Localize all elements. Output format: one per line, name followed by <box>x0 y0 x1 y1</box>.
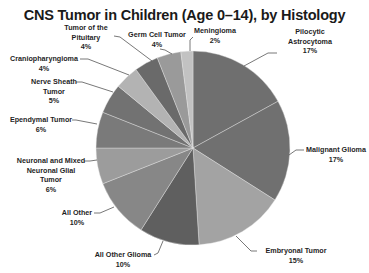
label-pct: 6% <box>12 185 90 195</box>
label-text: Pituitary <box>58 33 114 43</box>
label-text: Ependymal Tumor <box>5 115 77 125</box>
label-embryonal: Embryonal Tumor 15% <box>256 246 336 265</box>
label-text: Malignant Glioma <box>303 145 369 155</box>
label-nervesheath: Nerve Sheath Tumor 5% <box>26 77 82 106</box>
label-allotherglioma: All Other Glioma 10% <box>88 250 158 269</box>
leader-embryonal <box>236 236 257 251</box>
label-text: Astrocytoma <box>271 37 349 47</box>
label-text: Tumor <box>26 87 82 97</box>
label-text: Pilocytic <box>271 27 349 37</box>
label-text: Embryonal Tumor <box>256 246 336 256</box>
leader-malignant <box>289 150 304 155</box>
leader-cranio <box>80 59 129 75</box>
leader-germcell <box>160 49 172 54</box>
label-meningioma: Meningioma 2% <box>190 26 240 45</box>
label-pct: 17% <box>303 155 369 165</box>
label-allother: All Other 10% <box>52 208 102 227</box>
label-text: Tumor <box>12 175 90 185</box>
label-pct: 10% <box>88 260 158 270</box>
label-text: Meningioma <box>190 26 240 36</box>
label-text: Craniopharyngioma <box>5 54 83 64</box>
label-pct: 6% <box>5 125 77 135</box>
label-text: All Other Glioma <box>88 250 158 260</box>
label-text: Tumor of the <box>58 23 114 33</box>
label-cranio: Craniopharyngioma 4% <box>5 54 83 73</box>
label-text: Germ Cell Tumor <box>122 30 192 40</box>
label-pct: 15% <box>256 256 336 266</box>
label-text: Neuronal and Mixed <box>12 156 90 166</box>
label-pct: 10% <box>52 218 102 228</box>
label-pilocytic: Pilocytic Astrocytoma 17% <box>271 27 349 56</box>
label-ependymal: Ependymal Tumor 6% <box>5 115 77 134</box>
label-germcell: Germ Cell Tumor 4% <box>122 30 192 49</box>
label-pct: 4% <box>5 64 83 74</box>
label-pct: 5% <box>26 96 82 106</box>
pie-slices <box>96 51 290 245</box>
chart-root: CNS Tumor in Children (Age 0–14), by His… <box>0 0 369 273</box>
label-text: All Other <box>52 208 102 218</box>
label-malignant: Malignant Glioma 17% <box>303 145 369 164</box>
label-pituitary: Tumor of the Pituitary 4% <box>58 23 114 52</box>
label-pct: 17% <box>271 46 349 56</box>
label-pct: 2% <box>190 36 240 46</box>
label-pct: 4% <box>122 40 192 50</box>
label-text: Neuronal Glial <box>12 166 90 176</box>
label-pct: 4% <box>58 42 114 52</box>
label-text: Nerve Sheath <box>26 77 82 87</box>
label-neuronal: Neuronal and Mixed Neuronal Glial Tumor … <box>12 156 90 194</box>
